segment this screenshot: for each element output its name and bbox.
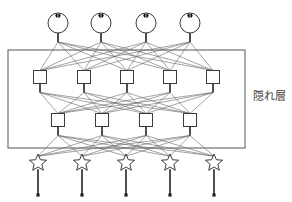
terminal-dot-icon <box>80 193 83 196</box>
terminal-dot-icon <box>212 193 215 196</box>
output-node <box>91 13 111 33</box>
hidden-node <box>34 71 47 84</box>
input-node-star-icon <box>29 154 46 170</box>
terminal-dot-icon <box>36 193 39 196</box>
output-circle-nodes <box>48 13 200 33</box>
hidden-node <box>184 114 197 127</box>
input-node-star-icon <box>117 154 134 170</box>
diagram-canvas: 隠れ層 <box>0 0 292 202</box>
hidden-layer-label: 隠れ層 <box>253 91 286 102</box>
input-star-nodes <box>29 154 222 170</box>
output-node <box>136 13 156 33</box>
terminal-dot-icon <box>168 193 171 196</box>
input-node-star-icon <box>161 154 178 170</box>
hidden-node <box>96 114 109 127</box>
hidden-layer-2-nodes <box>52 114 197 127</box>
input-node-star-icon <box>73 154 90 170</box>
edges-hidden1-to-hidden2 <box>40 93 213 114</box>
hidden-node <box>207 71 220 84</box>
edges-output-to-hidden1 <box>40 42 213 71</box>
network-diagram-svg <box>0 0 292 202</box>
input-node-star-icon <box>205 154 222 170</box>
hidden-node <box>78 71 91 84</box>
hidden-node <box>140 114 153 127</box>
output-node <box>48 13 68 33</box>
hidden-node <box>121 71 134 84</box>
hidden-node <box>52 114 65 127</box>
output-node <box>180 13 200 33</box>
edges-hidden2-to-input <box>38 136 214 157</box>
hidden-layer-1-nodes <box>34 71 220 84</box>
input-terminal-dots <box>36 193 215 196</box>
hidden-node <box>164 71 177 84</box>
terminal-dot-icon <box>124 193 127 196</box>
